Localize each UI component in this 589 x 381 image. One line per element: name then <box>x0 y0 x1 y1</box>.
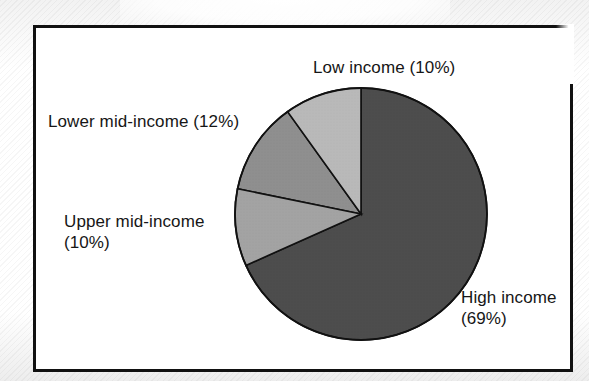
pie-texture-overlay <box>235 88 487 340</box>
frame-edge-fade <box>556 24 574 84</box>
pie-label-high-income-text: High income <box>461 288 557 307</box>
pie-label-upper-mid-income-value: (10%) <box>64 232 204 253</box>
pie-label-lower-mid-income-text: Lower mid-income (12%) <box>48 112 239 131</box>
pie-label-upper-mid-income: Upper mid-income (10%) <box>64 211 204 253</box>
pie-chart-area: Low income (10%) Lower mid-income (12%) … <box>36 28 570 369</box>
figure-frame: Low income (10%) Lower mid-income (12%) … <box>33 25 573 372</box>
scanner-glare <box>120 0 450 26</box>
pie-label-upper-mid-income-text: Upper mid-income <box>64 212 204 231</box>
pie-label-low-income: Low income (10%) <box>313 57 455 78</box>
pie-label-lower-mid-income: Lower mid-income (12%) <box>48 111 239 132</box>
pie-label-high-income-value: (69%) <box>461 308 557 329</box>
pie-label-low-income-text: Low income (10%) <box>313 58 455 77</box>
pie-label-high-income: High income (69%) <box>461 287 557 329</box>
